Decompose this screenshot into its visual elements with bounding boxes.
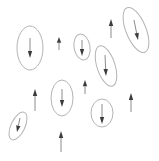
up-vector-arrow [83,80,87,94]
arrowhead-icon [83,80,87,86]
vector-field-diagram [0,0,159,161]
down-vector-arrow [28,38,32,58]
arrowhead-icon [60,100,64,107]
arrowhead-icon [57,37,61,43]
vector-field-svg [0,0,159,161]
arrowhead-icon [80,49,84,56]
up-vector-arrow [129,93,133,112]
arrowhead-icon [16,125,20,132]
up-vector-arrow [33,89,37,111]
arrowhead-icon [28,51,32,58]
arrowhead-icon [103,69,107,76]
arrowhead-icon [33,89,37,96]
down-vector-arrow [100,104,104,124]
down-vector-arrow [134,20,139,40]
arrow-shaft [105,55,106,69]
up-vector-arrow [109,19,113,38]
arrowhead-icon [100,117,104,124]
arrowhead-icon [59,131,63,138]
vector-arrow-layer [16,19,139,152]
error-ellipse-layer [5,4,154,143]
arrowhead-icon [134,33,138,40]
down-vector-arrow [60,89,64,107]
arrow-shaft [18,118,20,126]
up-vector-arrow [59,131,63,152]
down-vector-arrow [80,40,84,56]
arrow-shaft [134,20,137,33]
arrowhead-icon [109,19,113,26]
up-vector-arrow [57,37,61,50]
down-vector-arrow [16,118,20,132]
arrowhead-icon [129,93,133,100]
down-vector-arrow [103,55,107,76]
